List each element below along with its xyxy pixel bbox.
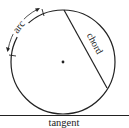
- center-point: [62, 61, 65, 64]
- arc-indicator: [6, 8, 44, 56]
- arrowhead-bottom-icon: [6, 47, 10, 52]
- arc-tick-left: [9, 55, 16, 56]
- tangent-label: tangent: [49, 117, 80, 128]
- circle-diagram: arc chord tangent: [0, 0, 129, 128]
